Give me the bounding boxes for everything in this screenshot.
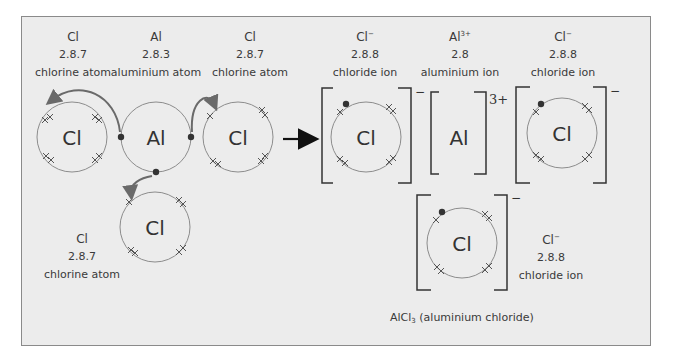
reactant-cl-right-atom: Cl <box>203 102 273 172</box>
electron-configuration: 2.8.7 <box>212 46 288 64</box>
product-aluminium-ion: 3+ Al <box>431 92 508 174</box>
label-product-chloride-right: Cl− 2.8.8 chloride ion <box>531 28 595 82</box>
label-reactant-cl-left: Cl 2.8.7 chlorine atom <box>35 28 111 82</box>
compound-formula-caption: AlCl3 (aluminium chloride) <box>390 311 534 324</box>
electron-transfer-arrow-bottom <box>131 176 152 193</box>
atom-name: chlorine atom <box>212 64 288 82</box>
electron-configuration: 2.8.7 <box>35 46 111 64</box>
label-product-aluminium-ion: Al3+ 2.8 aluminium ion <box>421 28 500 82</box>
ion-symbol: Cl <box>356 30 368 44</box>
formula-description: (aluminium chloride) <box>416 311 534 324</box>
atom-symbol: Al <box>111 28 201 46</box>
electron-configuration: 2.8.7 <box>44 248 120 266</box>
atom-name: aluminium atom <box>111 64 201 82</box>
svg-text:Al: Al <box>146 126 165 150</box>
label-reactant-cl-bottom: Cl 2.8.7 chlorine atom <box>44 230 120 284</box>
svg-text:−: − <box>415 85 425 99</box>
product-chloride-ion-right: − Cl <box>516 84 620 183</box>
bracket-icon <box>494 195 507 290</box>
dot-electron-icon <box>538 101 544 107</box>
formula-main: AlCl <box>390 311 411 324</box>
bracket-icon <box>398 88 411 183</box>
label-product-chloride-bottom: Cl− 2.8.8 chloride ion <box>519 231 583 285</box>
svg-text:Cl: Cl <box>228 126 248 150</box>
reactant-al-atom: Al <box>118 102 194 175</box>
svg-text:Cl: Cl <box>356 126 376 150</box>
ion-charge: 3+ <box>461 30 471 38</box>
svg-text:−: − <box>511 191 521 205</box>
svg-text:Al: Al <box>449 126 468 150</box>
svg-text:−: − <box>610 84 620 98</box>
reactant-cl-bottom-atom: Cl <box>120 192 190 262</box>
electron-configuration: 2.8 <box>421 46 500 64</box>
bracket-icon <box>417 195 431 290</box>
ion-charge: − <box>566 30 572 38</box>
bracket-icon <box>593 87 606 183</box>
ion-name: chloride ion <box>531 64 595 82</box>
electron-configuration: 2.8.8 <box>531 46 595 64</box>
atom-symbol: Cl <box>35 28 111 46</box>
atom-name: chlorine atom <box>35 64 111 82</box>
electron-configuration: 2.8.8 <box>333 46 397 64</box>
dot-electron-icon <box>439 209 445 215</box>
dot-electron-icon <box>118 134 124 140</box>
ion-charge: − <box>368 30 374 38</box>
atom-name: chlorine atom <box>44 266 120 284</box>
electron-configuration: 2.8.8 <box>519 249 583 267</box>
label-product-chloride-left: Cl− 2.8.8 chloride ion <box>333 28 397 82</box>
ion-name: chloride ion <box>519 267 583 285</box>
ion-symbol: Cl <box>554 30 566 44</box>
svg-text:3+: 3+ <box>489 92 508 107</box>
ion-charge: − <box>554 233 560 241</box>
svg-text:Cl: Cl <box>452 232 472 256</box>
dot-electron-icon <box>343 101 349 107</box>
electron-configuration: 2.8.3 <box>111 46 201 64</box>
bracket-icon <box>431 92 439 174</box>
svg-text:Cl: Cl <box>62 126 82 150</box>
reactant-cl-left-atom: Cl <box>37 102 107 172</box>
dot-electron-icon <box>188 134 194 140</box>
bracket-icon <box>516 87 530 183</box>
product-chloride-ion-bottom: − Cl <box>417 191 521 290</box>
label-reactant-cl-right: Cl 2.8.7 chlorine atom <box>212 28 288 82</box>
label-reactant-al: Al 2.8.3 aluminium atom <box>111 28 201 82</box>
ion-symbol: Al <box>449 30 461 44</box>
svg-text:Cl: Cl <box>145 216 165 240</box>
atom-symbol: Cl <box>212 28 288 46</box>
product-chloride-ion-left: − Cl <box>322 85 425 183</box>
svg-text:Cl: Cl <box>552 122 572 146</box>
ion-symbol: Cl <box>542 233 554 247</box>
dot-electron-icon <box>153 169 159 175</box>
atom-symbol: Cl <box>44 230 120 248</box>
ion-name: chloride ion <box>333 64 397 82</box>
bracket-icon <box>474 92 486 174</box>
ion-name: aluminium ion <box>421 64 500 82</box>
